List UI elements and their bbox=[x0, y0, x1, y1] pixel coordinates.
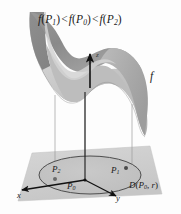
axis-z-label: z bbox=[96, 52, 99, 59]
figure-container: f(P1)<f(P0)<f(P2) f z x y P0 P1 P2 D(P0,… bbox=[0, 0, 181, 214]
point-p2-dot bbox=[53, 177, 57, 181]
point-p0-dot bbox=[83, 178, 86, 181]
p0-subscript: 0 bbox=[73, 185, 76, 191]
point-p1-dot bbox=[124, 166, 128, 170]
ineq-lt1: < bbox=[60, 13, 69, 25]
point-p0-label: P0 bbox=[67, 182, 75, 192]
ineq-rparen3: ) bbox=[118, 13, 122, 25]
ineq-p3: P bbox=[107, 13, 114, 25]
disk-label: D(P0, r) bbox=[129, 181, 158, 191]
p2-subscript: 2 bbox=[58, 168, 61, 174]
surface-function-label: f bbox=[150, 71, 153, 83]
disk-rparen: ) bbox=[155, 180, 158, 190]
axis-x-label: x bbox=[17, 191, 21, 200]
axis-y-label: y bbox=[116, 194, 120, 203]
inequality-label: f(P1)<f(P0)<f(P2) bbox=[38, 14, 122, 26]
p1-subscript: 1 bbox=[117, 169, 120, 175]
point-p2-label: P2 bbox=[52, 165, 60, 175]
surface-group bbox=[30, 12, 148, 137]
point-p1-label: P1 bbox=[111, 166, 119, 176]
ineq-lt2: < bbox=[91, 13, 100, 25]
disk-comma: , bbox=[147, 180, 149, 190]
